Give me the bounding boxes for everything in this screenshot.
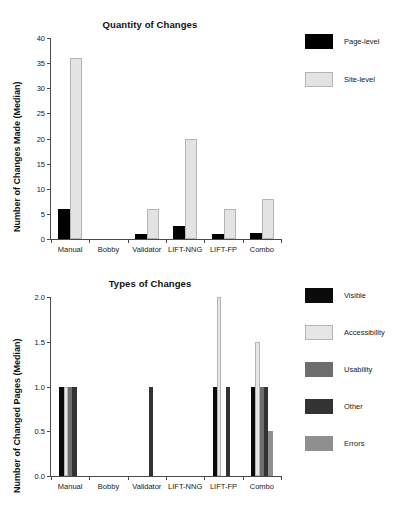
legend-label: Site-level — [344, 75, 375, 84]
legend-label: Errors — [344, 439, 364, 448]
x-axis-tick-label: LIFT-NNG — [168, 245, 202, 254]
y-axis-tick — [47, 342, 51, 343]
legend-item: Errors — [305, 436, 364, 451]
bar — [226, 387, 230, 477]
x-axis-tick — [166, 476, 167, 480]
legend-label: Visible — [344, 291, 366, 300]
bar — [224, 209, 236, 239]
x-axis-tick-label: Combo — [250, 482, 274, 491]
x-axis-tick-label: LIFT-NNG — [168, 482, 202, 491]
y-axis-tick — [47, 431, 51, 432]
bar — [58, 209, 70, 239]
x-axis-tick-label: Manual — [58, 245, 83, 254]
y-axis-tick-label: 25 — [37, 109, 45, 118]
x-axis-tick-label: Bobby — [98, 482, 119, 491]
legend-swatch — [305, 325, 333, 340]
x-axis-tick-label: Validator — [132, 245, 161, 254]
y-axis-label-top: Number of Changes Made (Median) — [12, 81, 22, 232]
bar — [173, 226, 185, 239]
bar — [217, 297, 221, 476]
y-axis-tick-label: 15 — [37, 159, 45, 168]
plot-area-bottom: 0.00.51.01.52.0ManualBobbyValidatorLIFT-… — [50, 297, 281, 477]
legend-item: Usability — [305, 362, 372, 377]
legend-label: Page-level — [344, 37, 379, 46]
legend-item: Other — [305, 399, 363, 414]
x-axis-tick — [281, 476, 282, 480]
legend-swatch — [305, 72, 333, 87]
bar — [262, 199, 274, 239]
bar — [70, 58, 82, 239]
bar — [250, 233, 262, 239]
bar — [268, 431, 272, 476]
y-axis-tick-label: 5 — [41, 209, 45, 218]
x-axis-tick-label: Combo — [250, 245, 274, 254]
legend-label: Usability — [344, 365, 372, 374]
legend-swatch — [305, 436, 333, 451]
bar — [185, 139, 197, 240]
figure-types-of-changes: Types of Changes Number of Changed Pages… — [0, 265, 394, 526]
y-axis-tick — [47, 139, 51, 140]
legend-label: Other — [344, 402, 363, 411]
y-axis-tick-label: 40 — [37, 34, 45, 43]
y-axis-tick — [47, 214, 51, 215]
y-axis-tick — [47, 63, 51, 64]
x-axis-tick — [166, 239, 167, 243]
x-axis-tick — [281, 239, 282, 243]
legend-swatch — [305, 288, 333, 303]
x-axis-tick-label: LIFT-FP — [210, 245, 237, 254]
x-axis-tick — [128, 239, 129, 243]
y-axis-tick-label: 20 — [37, 134, 45, 143]
bar — [149, 387, 153, 477]
legend-item: Visible — [305, 288, 366, 303]
x-axis-tick — [243, 239, 244, 243]
y-axis-tick-label: 30 — [37, 84, 45, 93]
x-axis-tick — [204, 476, 205, 480]
y-axis-tick-label: 1.5 — [35, 337, 45, 346]
legend-item: Site-level — [305, 72, 375, 87]
legend-swatch — [305, 399, 333, 414]
x-axis-tick — [51, 476, 52, 480]
chart-title-top: Quantity of Changes — [0, 19, 300, 30]
legend-swatch — [305, 34, 333, 49]
y-axis-tick — [47, 164, 51, 165]
y-axis-tick-label: 0.5 — [35, 427, 45, 436]
y-axis-tick — [47, 387, 51, 388]
y-axis-tick — [47, 38, 51, 39]
y-axis-tick-label: 35 — [37, 59, 45, 68]
y-axis-tick-label: 0.0 — [35, 472, 45, 481]
y-axis-tick — [47, 88, 51, 89]
legend-label: Accessibility — [344, 328, 385, 337]
x-axis-tick-label: LIFT-FP — [210, 482, 237, 491]
x-axis-tick — [89, 239, 90, 243]
x-axis-tick-label: Bobby — [98, 245, 119, 254]
x-axis-tick — [128, 476, 129, 480]
y-axis-tick — [47, 189, 51, 190]
x-axis-tick — [243, 476, 244, 480]
legend-item: Accessibility — [305, 325, 385, 340]
bar — [212, 234, 224, 239]
y-axis-tick-label: 2.0 — [35, 293, 45, 302]
x-axis-tick — [204, 239, 205, 243]
y-axis-label-bottom: Number of Changed Pages (Median) — [12, 338, 22, 493]
legend-swatch — [305, 362, 333, 377]
y-axis-tick — [47, 113, 51, 114]
y-axis-tick — [47, 297, 51, 298]
x-axis-tick-label: Manual — [58, 482, 83, 491]
x-axis-tick — [51, 239, 52, 243]
bar — [147, 209, 159, 239]
plot-area-top: 0510152025303540ManualBobbyValidatorLIFT… — [50, 38, 281, 240]
y-axis-tick-label: 1.0 — [35, 382, 45, 391]
bar — [135, 234, 147, 239]
chart-title-bottom: Types of Changes — [0, 278, 300, 289]
y-axis-tick-label: 10 — [37, 184, 45, 193]
y-axis-tick-label: 0 — [41, 235, 45, 244]
x-axis-tick — [89, 476, 90, 480]
x-axis-tick-label: Validator — [132, 482, 161, 491]
bar — [72, 387, 76, 477]
figure-quantity-of-changes: Quantity of Changes Number of Changes Ma… — [0, 0, 394, 265]
legend-item: Page-level — [305, 34, 379, 49]
